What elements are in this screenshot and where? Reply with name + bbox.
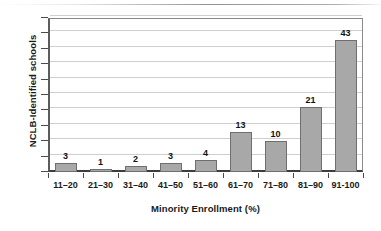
bar-group[interactable]: 13 [223,18,258,172]
x-axis-label: 81–90 [293,180,328,190]
y-axis-title: NCLB-Identified schools [27,11,41,171]
bar[interactable] [265,141,287,172]
bar[interactable] [335,40,357,172]
bar-value-label: 21 [305,95,315,105]
bar-value-label: 1 [98,157,103,167]
bar-group[interactable]: 3 [48,18,83,172]
y-axis-tick [41,125,48,126]
bar-group[interactable]: 10 [258,18,293,172]
gridline [50,15,362,16]
y-axis-tick [41,32,48,33]
bar[interactable] [55,163,77,172]
y-axis-tick [41,156,48,157]
x-axis-tick [328,173,329,178]
bar-value-label: 3 [63,151,68,161]
x-axis-label: 51–60 [188,180,223,190]
bar[interactable] [125,166,147,172]
bar[interactable] [160,163,182,172]
bar-group[interactable]: 21 [293,18,328,172]
x-axis-tick [293,173,294,178]
bar-value-label: 3 [168,151,173,161]
x-axis-label: 91-100 [328,180,363,190]
y-axis-tick [41,171,48,172]
y-axis-tick [41,63,48,64]
x-axis-tick [48,173,49,178]
x-axis-title: Minority Enrollment (%) [48,203,363,214]
x-axis-label: 11–20 [48,180,83,190]
y-axis-tick [41,140,48,141]
bar-value-label: 2 [133,154,138,164]
bar-group[interactable]: 43 [328,18,363,172]
bar-value-label: 13 [235,120,245,130]
y-axis-tick-marks [41,18,48,172]
x-axis-label: 41–50 [153,180,188,190]
x-axis-tick-labels: 11–2021–3031–4041–5051–6061–7071–8081–90… [48,180,363,194]
x-axis-tick [223,173,224,178]
bar-group[interactable]: 1 [83,18,118,172]
x-axis-label: 31–40 [118,180,153,190]
x-axis-label: 61–70 [223,180,258,190]
bar[interactable] [300,107,322,172]
bar-group[interactable]: 2 [118,18,153,172]
x-axis-tick [363,173,364,178]
bar-value-label: 4 [203,148,208,158]
bar[interactable] [90,169,112,172]
y-axis-tick [41,79,48,80]
x-axis-tick [188,173,189,178]
bar-chart-figure: NCLB-Identified schools 3123413102143 11… [0,0,381,231]
x-axis-tick [83,173,84,178]
x-axis-tick [153,173,154,178]
x-axis-label: 21–30 [83,180,118,190]
y-axis-tick [41,109,48,110]
x-axis-tick [118,173,119,178]
bars-layer: 3123413102143 [48,18,363,172]
bar-group[interactable]: 4 [188,18,223,172]
bar-group[interactable]: 3 [153,18,188,172]
bar-value-label: 10 [270,129,280,139]
x-axis-tick-marks [48,173,363,179]
x-axis-tick [258,173,259,178]
y-axis-tick [41,17,48,18]
bar[interactable] [195,160,217,172]
y-axis-tick [41,48,48,49]
x-axis-label: 71–80 [258,180,293,190]
bar-value-label: 43 [340,28,350,38]
y-axis-tick [41,94,48,95]
bar[interactable] [230,132,252,172]
